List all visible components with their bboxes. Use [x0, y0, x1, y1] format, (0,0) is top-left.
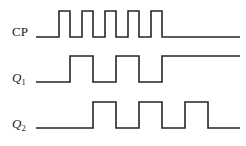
waveform-q2 [36, 102, 240, 128]
signal-label-cp: CP [12, 24, 28, 39]
signal-label-q2-subscript: 2 [21, 123, 25, 133]
signal-label-q1: Q1 [12, 70, 26, 87]
waveform-cp [36, 11, 240, 37]
waveform-canvas: CP Q1 Q2 [0, 0, 246, 146]
signal-label-q2: Q2 [12, 116, 26, 133]
waveform-q1 [36, 56, 240, 82]
timing-diagram-figure: CP Q1 Q2 [0, 0, 246, 146]
signal-label-q1-subscript: 1 [21, 77, 25, 87]
